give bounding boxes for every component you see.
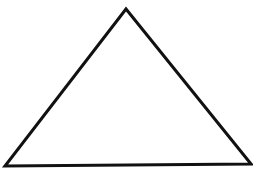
triangle-shape — [5, 9, 251, 166]
triangle-diagram — [0, 0, 253, 172]
diagram-canvas — [0, 0, 253, 172]
